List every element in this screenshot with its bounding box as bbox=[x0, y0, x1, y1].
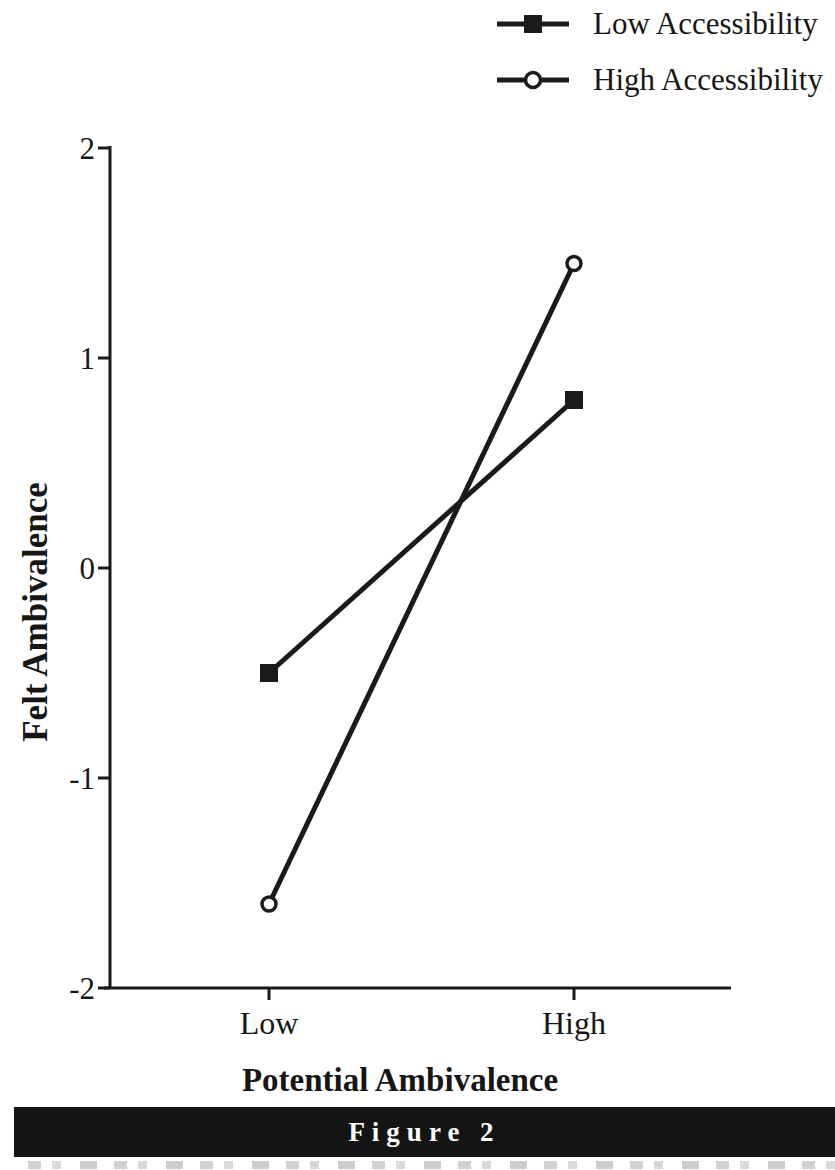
figure-caption-label: Figure 2 bbox=[348, 1117, 500, 1148]
x-tick-label: Low bbox=[240, 1005, 299, 1041]
y-tick-label: 2 bbox=[80, 131, 96, 166]
chart-canvas: 210-1-2LowHigh bbox=[0, 0, 835, 1170]
y-axis-title: Felt Ambivalence bbox=[16, 482, 56, 742]
y-tick-label: -2 bbox=[69, 971, 95, 1006]
data-point-marker-low-accessibility bbox=[260, 664, 278, 682]
x-tick-label: High bbox=[542, 1005, 606, 1041]
data-point-marker-low-accessibility bbox=[565, 391, 583, 409]
y-tick-label: -1 bbox=[69, 761, 95, 796]
figure-caption-bar: Figure 2 bbox=[14, 1107, 835, 1157]
scanned-figure-page: Low Accessibility High Accessibility 210… bbox=[0, 0, 835, 1170]
data-point-marker-high-accessibility bbox=[262, 897, 276, 911]
data-point-marker-high-accessibility bbox=[567, 257, 581, 271]
series-line-high-accessibility bbox=[269, 264, 574, 905]
series-line-low-accessibility bbox=[269, 400, 574, 673]
y-tick-label: 1 bbox=[80, 341, 96, 376]
x-axis-title: Potential Ambivalence bbox=[242, 1062, 558, 1099]
cut-off-text-line bbox=[28, 1161, 835, 1169]
y-tick-label: 0 bbox=[80, 551, 96, 586]
